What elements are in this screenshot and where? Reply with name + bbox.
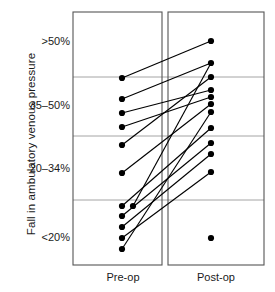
y-tick-label-over-50: >50% — [8, 35, 70, 47]
postop-point — [208, 74, 214, 80]
postop-point — [208, 169, 214, 175]
postop-point — [208, 94, 214, 100]
postop-point — [208, 235, 214, 241]
postop-point — [208, 38, 214, 44]
preop-point — [119, 203, 125, 209]
postop-point — [208, 140, 214, 146]
preop-point — [119, 124, 125, 130]
preop-point — [119, 224, 125, 230]
postop-point — [208, 109, 214, 115]
preop-point — [119, 170, 125, 176]
preop-point — [119, 246, 125, 252]
x-tick-label-postop: Post-op — [186, 271, 246, 283]
preop-point — [119, 75, 125, 81]
preop-point — [119, 235, 125, 241]
postop-point — [208, 60, 214, 66]
preop-point — [119, 96, 125, 102]
y-tick-label-under-20: <20% — [8, 231, 70, 243]
y-tick-label-20-34: 20–34% — [8, 162, 70, 174]
postop-point — [208, 125, 214, 131]
preop-point — [119, 213, 125, 219]
postop-point — [208, 87, 214, 93]
preop-point — [119, 110, 125, 116]
y-tick-label-35-50: 35–50% — [8, 99, 70, 111]
postop-point — [208, 101, 214, 107]
y-tick-labels: >50% 35–50% 20–34% <20% — [6, 0, 70, 292]
postop-point — [208, 151, 214, 157]
x-tick-label-preop: Pre-op — [93, 271, 153, 283]
preop-point — [119, 142, 125, 148]
preop-point — [130, 203, 136, 209]
slope-chart: Fall in ambulatory venous pressure >50% … — [0, 0, 275, 292]
